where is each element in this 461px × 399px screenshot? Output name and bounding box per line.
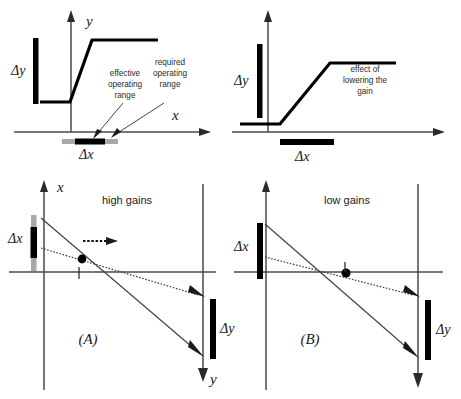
ray-high-gain-steep — [41, 218, 204, 357]
svg-text:effective: effective — [110, 69, 141, 78]
gain-operating-range-figure: y x Δy Δx effective operating range — [0, 0, 461, 399]
delta-y-bar-top-right — [257, 44, 263, 118]
svg-text:range: range — [115, 91, 136, 100]
axis-label-x-top-left: x — [171, 107, 179, 123]
delta-x-label-top-right: Δx — [294, 149, 310, 164]
axis-x-bottom-left — [40, 180, 48, 390]
axis-x-top-right — [232, 128, 445, 136]
effective-range-bar-top-left — [75, 139, 105, 145]
panel-bottom-right: low gains Δx Δy (B) — [233, 180, 451, 390]
axis-label-x-bottom-left: x — [56, 179, 64, 195]
panel-label-b: (B) — [300, 331, 319, 348]
title-bottom-right: low gains — [324, 194, 370, 206]
svg-text:lowering the: lowering the — [343, 76, 388, 85]
panel-bottom-left: x y high gains Δx — [7, 179, 235, 390]
annotation-effect-lowering-gain: effect of lowering the gain — [343, 65, 388, 96]
delta-y-label-bottom-right: Δy — [435, 322, 451, 337]
delta-x-label-bottom-right: Δx — [233, 239, 249, 254]
delta-y-label-top-left: Δy — [10, 63, 26, 78]
delta-y-bar-bottom-right — [425, 300, 431, 360]
figure-root: y x Δy Δx effective operating range — [0, 0, 461, 399]
delta-x-bar-top-right — [280, 139, 334, 145]
axis-x-bottom-right — [262, 180, 270, 390]
delta-y-bar-bottom-left — [210, 299, 216, 359]
delta-y-label-bottom-left: Δy — [219, 321, 235, 336]
delta-y-label-top-right: Δy — [233, 73, 249, 88]
axis-y-top-right — [264, 10, 272, 132]
transfer-curve-high-gain — [40, 40, 158, 102]
svg-text:operating: operating — [108, 80, 143, 89]
flow-arrow-bottom-left — [83, 237, 118, 245]
panel-label-a: (A) — [78, 331, 97, 348]
effective-range-bar-bottom-left — [31, 227, 38, 258]
delta-x-label-top-left: Δx — [78, 147, 94, 162]
title-bottom-left: high gains — [102, 194, 153, 206]
svg-text:operating: operating — [153, 69, 188, 78]
leader-effective-range — [93, 103, 123, 139]
panel-top-left: y x Δy Δx effective operating range — [10, 10, 211, 162]
axis-x-top-left — [14, 128, 211, 136]
panel-top-right: Δy Δx effect of lowering the gain — [232, 10, 445, 164]
annotation-effective-operating-range: effective operating range — [108, 69, 143, 100]
axis-y-bottom-right — [413, 184, 423, 388]
axis-label-y-top-left: y — [84, 13, 93, 29]
svg-text:range: range — [160, 80, 181, 89]
delta-y-bar-top-left — [33, 38, 39, 104]
axis-y-top-left — [67, 10, 75, 132]
axis-label-y-bottom-left: y — [208, 371, 217, 387]
svg-text:gain: gain — [357, 87, 373, 96]
delta-x-bar-bottom-right — [257, 223, 263, 279]
intersection-dot-bottom-right — [341, 268, 350, 277]
svg-text:effect of: effect of — [351, 65, 381, 74]
svg-text:required: required — [155, 58, 185, 67]
annotation-required-operating-range: required operating range — [153, 58, 188, 89]
delta-x-label-bottom-left: Δx — [7, 231, 23, 246]
intersection-dot-bottom-left — [78, 255, 87, 264]
